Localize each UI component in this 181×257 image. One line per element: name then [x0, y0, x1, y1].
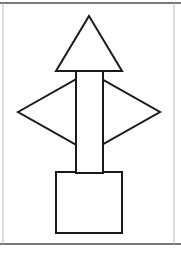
square-shape [56, 172, 122, 233]
vertical-rectangle-shape [76, 70, 103, 173]
figure-canvas [0, 0, 181, 257]
figure-page: Geometric line drawing [0, 0, 181, 257]
